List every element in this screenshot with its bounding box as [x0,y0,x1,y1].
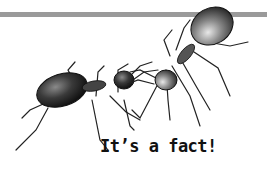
left-ant-body [32,67,134,114]
right-ant [128,20,248,126]
caption-text: It’s a fact! [100,136,217,156]
